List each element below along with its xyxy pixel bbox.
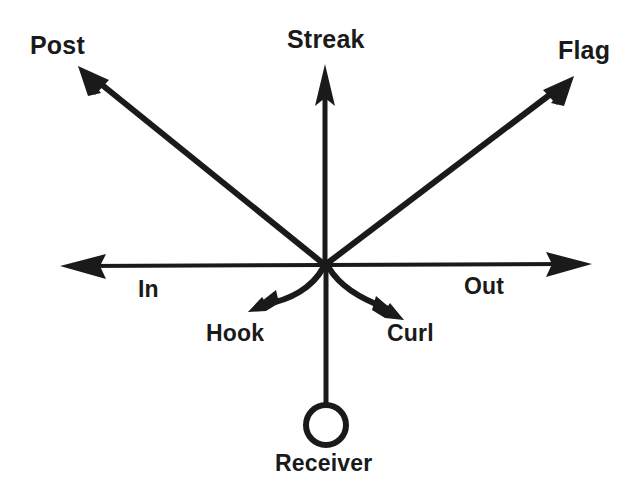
route-label-out: Out	[464, 275, 504, 298]
route-label-post: Post	[30, 33, 85, 58]
route-line-hook[interactable]	[248, 268, 323, 312]
route-line-curl[interactable]	[329, 268, 404, 320]
route-line-in[interactable]	[60, 254, 325, 279]
route-line-post[interactable]	[78, 66, 325, 265]
route-label-flag: Flag	[558, 38, 610, 63]
route-line-out[interactable]	[325, 252, 592, 277]
receiver-marker-icon[interactable]	[306, 405, 346, 445]
route-label-in: In	[138, 278, 159, 301]
route-line-flag[interactable]	[325, 76, 574, 265]
route-tree-diagram: Post Streak Flag In Out Hook Curl Receiv…	[0, 0, 642, 496]
route-label-curl: Curl	[387, 322, 434, 345]
route-label-hook: Hook	[206, 322, 264, 345]
route-tree-canvas	[0, 0, 642, 496]
route-line-streak[interactable]	[315, 64, 335, 265]
route-label-streak: Streak	[287, 27, 365, 52]
receiver-label: Receiver	[275, 452, 373, 475]
